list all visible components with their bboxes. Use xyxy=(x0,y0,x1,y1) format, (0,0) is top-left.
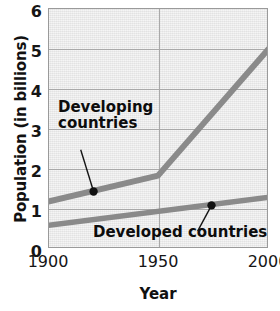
y-tick-3: 3 xyxy=(16,124,42,140)
y-tick-4: 4 xyxy=(16,84,42,100)
annotation-developing-countries: Developing countries xyxy=(58,99,153,131)
x-tick-2000: 2000 xyxy=(238,254,280,270)
y-tick-6: 6 xyxy=(16,4,42,20)
x-tick-1900: 1900 xyxy=(18,254,78,270)
x-tick-1950: 1950 xyxy=(128,254,188,270)
plot-area: Developing countries Developed countries xyxy=(48,8,268,248)
marker-developed xyxy=(207,201,215,209)
marker-developing xyxy=(89,187,97,195)
leader-line-developing xyxy=(81,150,94,192)
y-tick-2: 2 xyxy=(16,164,42,180)
x-axis-label: Year xyxy=(48,285,268,303)
y-tick-5: 5 xyxy=(16,44,42,60)
series-developed-countries xyxy=(49,197,267,225)
y-tick-1: 1 xyxy=(16,204,42,220)
population-line-chart: Population (in billions) 6 5 4 3 2 1 0 1… xyxy=(0,0,280,311)
annotation-developing-line1: Developing xyxy=(58,99,153,115)
annotation-developing-line2: countries xyxy=(58,115,153,131)
annotation-developed-countries: Developed countries xyxy=(93,224,267,240)
